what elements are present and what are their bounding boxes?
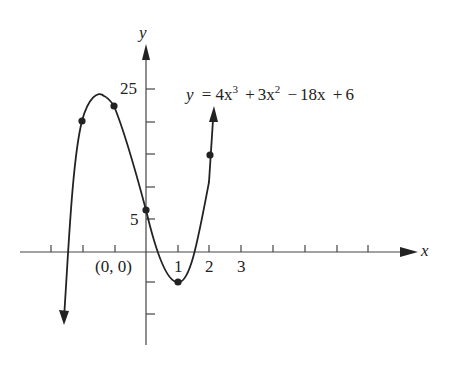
x-tick-label-1: 1 bbox=[174, 258, 183, 275]
cubic-curve bbox=[64, 94, 213, 318]
y-axis-label: y bbox=[139, 24, 147, 41]
x-axis-arrow-icon bbox=[400, 247, 418, 257]
x-axis-label: x bbox=[421, 242, 429, 259]
y-axis-arrow-icon bbox=[142, 44, 150, 60]
x-tick-label-3: 3 bbox=[237, 258, 246, 275]
curve-down-arrow-icon bbox=[59, 310, 69, 325]
curve-up-arrow-icon bbox=[209, 106, 218, 122]
x-tick-label-2: 2 bbox=[205, 258, 214, 275]
equation-label: y =4x3 +3x2 −18x +6 bbox=[186, 84, 354, 103]
y-ticks bbox=[146, 89, 155, 314]
x-ticks bbox=[51, 245, 368, 252]
cubic-graph bbox=[0, 0, 449, 365]
y-tick-label-5: 5 bbox=[130, 211, 139, 228]
origin-label: (0, 0) bbox=[95, 258, 132, 275]
y-tick-label-25: 25 bbox=[120, 80, 137, 97]
